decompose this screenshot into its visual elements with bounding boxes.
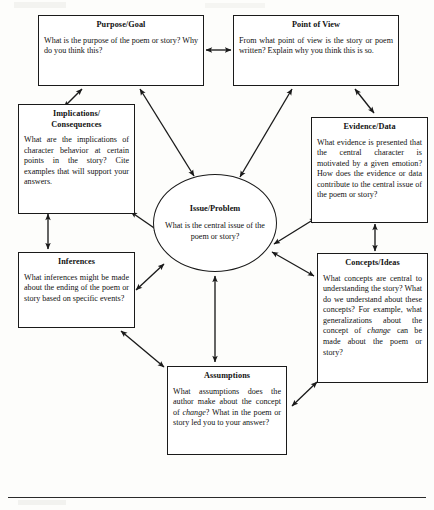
node-title: Purpose/Goal [44,20,198,31]
arrow-inferences-assumptions [121,331,164,367]
arrow-concepts-issue [272,252,314,276]
node-body: From what point of view is the story or … [239,36,393,57]
node-body: What is the purpose of the poem or story… [44,36,198,57]
node-assumptions[interactable]: Assumptions What assumptions does the au… [167,366,287,455]
node-body: What assumptions does the author make ab… [173,387,281,429]
arrow-evidence-issue [274,218,316,244]
node-body-emphasis: change [367,326,390,335]
node-title-line-1: Implications/ [24,109,129,120]
node-body: What concepts are central to understandi… [323,274,422,359]
node-body: What evidence is presented that the cent… [317,138,422,202]
footer-divider [8,497,426,498]
arrow-purpose-issue [140,89,194,176]
node-title: Concepts/Ideas [323,258,422,269]
node-title: Assumptions [173,371,281,382]
arrow-pointofview-evidence [355,89,374,113]
node-body: What inferences might be made about the … [24,273,129,305]
node-title: Point of View [239,20,393,31]
arrow-pointofview-issue [240,89,292,177]
node-issue-problem[interactable]: Issue/Problem What is the central issue … [153,174,277,272]
node-title: Evidence/Data [317,122,422,133]
node-concepts-ideas[interactable]: Concepts/Ideas What concepts are central… [317,253,428,383]
node-body: What is the central issue of the poem or… [162,221,268,242]
node-evidence-data[interactable]: Evidence/Data What evidence is presented… [311,117,428,223]
node-title-line-2: Consequences [24,120,129,131]
node-title: Issue/Problem [190,204,241,213]
node-point-of-view[interactable]: Point of View From what point of view is… [233,15,399,86]
node-implications-consequences[interactable]: Implications/ Consequences What are the … [18,104,135,214]
diagram-page: Purpose/Goal What is the purpose of the … [0,0,434,510]
node-inferences[interactable]: Inferences What inferences might be made… [18,252,135,328]
node-title: Inferences [24,257,129,268]
node-title: Implications/ Consequences [24,109,129,130]
node-body: What are the implications of character b… [24,135,129,188]
arrow-inferences-issue [136,264,164,290]
arrow-concepts-assumptions [292,382,317,406]
node-body-emphasis: change [182,408,205,417]
node-purpose-goal[interactable]: Purpose/Goal What is the purpose of the … [38,15,204,86]
